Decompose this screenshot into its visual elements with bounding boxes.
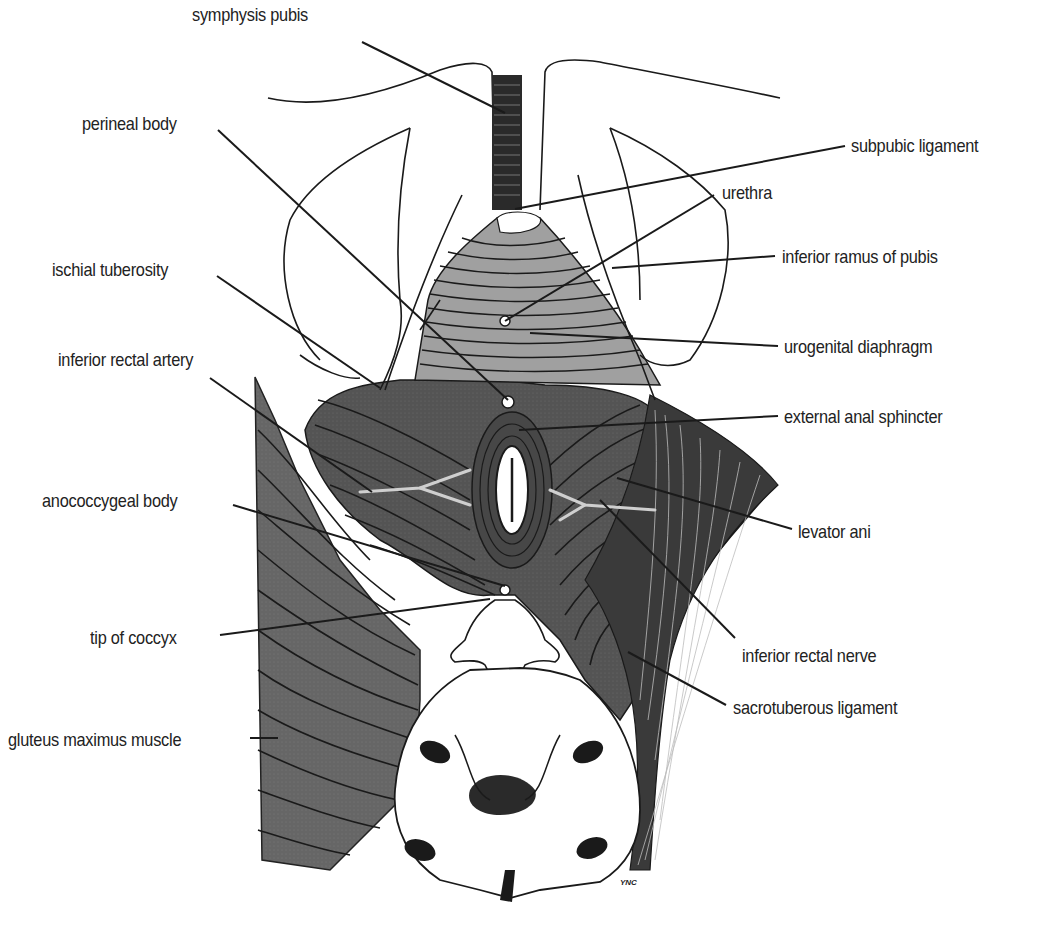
leader-ischial-tuberosity bbox=[217, 276, 380, 388]
artist-signature: YNC bbox=[620, 878, 637, 887]
leader-subpubic-ligament bbox=[515, 146, 845, 209]
symphysis-pubis-shape bbox=[492, 75, 522, 210]
label-inferior-rectal-nerve: inferior rectal nerve bbox=[742, 645, 876, 667]
urogenital-diaphragm-shape bbox=[415, 212, 660, 385]
leader-symphysis-pubis bbox=[362, 42, 505, 113]
label-tip-of-coccyx: tip of coccyx bbox=[90, 627, 177, 649]
label-sacrotuberous-ligament: sacrotuberous ligament bbox=[733, 697, 897, 719]
label-symphysis-pubis: symphysis pubis bbox=[192, 4, 308, 26]
label-inferior-rectal-artery: inferior rectal artery bbox=[58, 349, 193, 371]
label-subpubic-ligament: subpubic ligament bbox=[851, 135, 978, 157]
label-levator-ani: levator ani bbox=[798, 521, 871, 543]
label-inferior-ramus-of-pubis: inferior ramus of pubis bbox=[782, 246, 938, 268]
leader-inferior-ramus-of-pubis bbox=[612, 256, 775, 268]
label-anococcygeal-body: anococcygeal body bbox=[42, 490, 178, 512]
label-ischial-tuberosity: ischial tuberosity bbox=[52, 259, 168, 281]
label-urogenital-diaphragm: urogenital diaphragm bbox=[784, 336, 932, 358]
label-gluteus-maximus-muscle: gluteus maximus muscle bbox=[8, 729, 181, 751]
label-urethra: urethra bbox=[722, 182, 772, 204]
anococcygeal-knot bbox=[500, 585, 510, 595]
label-perineal-body: perineal body bbox=[82, 113, 177, 135]
perineal-body-knot bbox=[502, 396, 514, 408]
label-external-anal-sphincter: external anal sphincter bbox=[784, 406, 942, 428]
